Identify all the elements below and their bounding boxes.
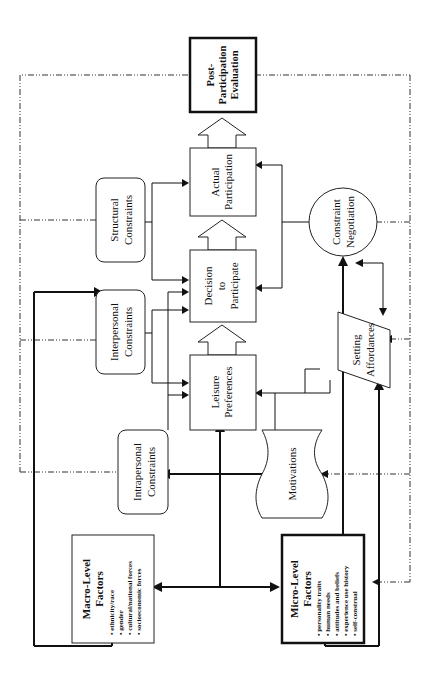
node-structural-constraints: Structural Constraints <box>96 178 145 262</box>
svg-text:Motivations: Motivations <box>286 447 298 500</box>
svg-text:• self-construal: • self-construal <box>351 591 359 636</box>
svg-text:• experience use history: • experience use history <box>342 565 350 636</box>
svg-text:Interpersonal: Interpersonal <box>108 303 120 361</box>
svg-text:Actual: Actual <box>209 167 221 196</box>
svg-text:Decision: Decision <box>202 266 214 306</box>
leisure-constraints-model-diagram: Leisure Preferences Decision to Particip… <box>0 0 422 674</box>
svg-text:Macro-Level: Macro-Level <box>80 559 92 619</box>
svg-text:Constraints: Constraints <box>122 307 134 357</box>
svg-text:Constraint: Constraint <box>330 199 342 245</box>
node-setting-affordances: Setting Affordances <box>338 312 390 388</box>
svg-text:Affordances: Affordances <box>364 323 376 377</box>
svg-text:Constraints: Constraints <box>122 195 134 245</box>
node-constraint-negotiation: Constraint Negotiation <box>309 188 377 256</box>
node-decision-to-participate: Decision to Participate <box>190 250 256 322</box>
svg-text:Micro-Level: Micro-Level <box>288 560 300 618</box>
svg-text:Setting: Setting <box>350 334 362 366</box>
svg-text:• human needs: • human needs <box>324 592 332 636</box>
node-micro-level-factors: Micro-Level Factors • personality traits… <box>282 535 364 643</box>
svg-text:Factors: Factors <box>301 571 313 607</box>
svg-text:to: to <box>215 281 227 290</box>
svg-text:• attitudes and beliefs: • attitudes and beliefs <box>333 572 341 636</box>
svg-text:Negotiation: Negotiation <box>344 196 356 248</box>
svg-text:Structural: Structural <box>108 198 120 241</box>
node-leisure-preferences: Leisure Preferences <box>190 355 256 430</box>
svg-text:Factors: Factors <box>93 571 105 607</box>
svg-text:Evaluation: Evaluation <box>229 50 240 99</box>
svg-text:Participation: Participation <box>222 153 234 210</box>
svg-text:Post-: Post- <box>205 63 216 86</box>
svg-text:• ethnicity/race: • ethnicity/race <box>108 590 116 635</box>
node-actual-participation: Actual Participation <box>190 148 256 216</box>
svg-text:Participation: Participation <box>217 45 228 104</box>
svg-text:Preferences: Preferences <box>222 366 234 417</box>
svg-text:Intrapersonal: Intrapersonal <box>131 443 143 501</box>
node-post-participation-evaluation: Post- Participation Evaluation <box>190 38 256 112</box>
svg-text:• gender: • gender <box>117 610 125 635</box>
node-interpersonal-constraints: Interpersonal Constraints <box>96 290 145 374</box>
svg-text:• personality traits: • personality traits <box>315 580 323 636</box>
node-macro-level-factors: Macro-Level Factors • ethnicity/race • g… <box>72 535 154 643</box>
svg-text:Constraints: Constraints <box>145 447 157 497</box>
svg-text:• cultural/national forces: • cultural/national forces <box>126 561 134 635</box>
node-motivations: Motivations <box>256 430 328 518</box>
svg-text:Participate: Participate <box>228 262 240 309</box>
svg-text:Leisure: Leisure <box>209 375 221 408</box>
node-intrapersonal-constraints: Intrapersonal Constraints <box>118 430 168 514</box>
svg-text:• socioeconomic forces: • socioeconomic forces <box>135 568 143 635</box>
